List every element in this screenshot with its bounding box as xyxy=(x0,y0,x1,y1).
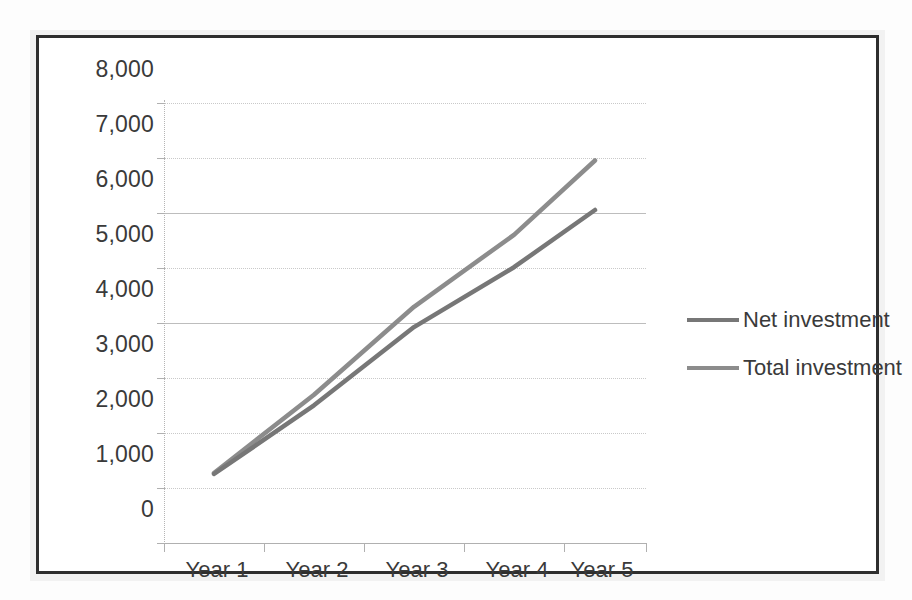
legend-item-total-investment: Total investment xyxy=(687,344,912,392)
legend-label-net-investment: Net investment xyxy=(743,307,890,333)
series-line-net-investment xyxy=(214,210,595,474)
legend-swatch-net-investment xyxy=(687,318,739,322)
legend: Net investment Total investment xyxy=(687,296,912,392)
chart-frame: 8,000 7,000 6,000 5,000 4,000 3,000 2,00… xyxy=(36,35,879,574)
legend-item-net-investment: Net investment xyxy=(687,296,912,344)
scanned-page: 8,000 7,000 6,000 5,000 4,000 3,000 2,00… xyxy=(0,0,912,600)
legend-swatch-total-investment xyxy=(687,366,739,370)
legend-label-total-investment: Total investment xyxy=(743,355,902,381)
series-line-total-investment xyxy=(214,161,595,473)
